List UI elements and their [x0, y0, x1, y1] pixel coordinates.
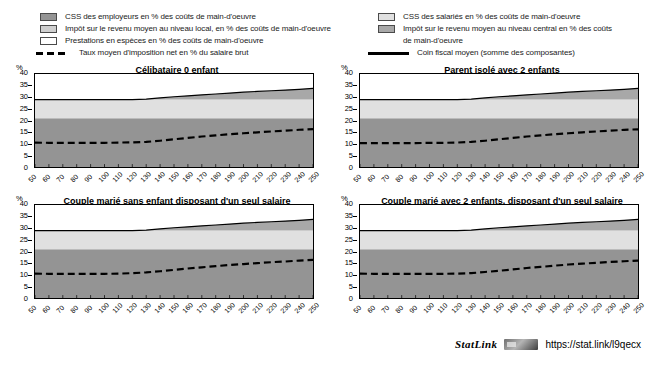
y-tick-label: 30	[345, 224, 353, 232]
x-tick-label: 160	[181, 170, 194, 183]
x-axis-labels: 5060708090100110120130140150160170180190…	[34, 169, 314, 193]
y-tick-mark	[353, 240, 357, 241]
statlink-url[interactable]: https://stat.link/l9qecx	[545, 339, 641, 350]
x-tick-label: 230	[604, 301, 617, 314]
legend-label-net-average-tax-rate: Taux moyen d'imposition net en % du sala…	[79, 48, 248, 58]
y-tick-label: 20	[20, 248, 28, 256]
y-tick-label: 30	[345, 93, 353, 101]
x-tick-label: 100	[97, 301, 110, 314]
x-tick-label: 50	[27, 304, 37, 314]
plot-frame	[359, 204, 639, 299]
legend-item-cash-benefits: Prestations en espèces en % des coûts de…	[40, 36, 340, 46]
legend-label-cash-benefits: Prestations en espèces en % des coûts de…	[65, 36, 263, 46]
legend-label-local-income-tax: Impôt sur le revenu moyen au niveau loca…	[65, 24, 331, 34]
plot-svg	[360, 74, 638, 167]
y-tick-mark	[353, 263, 357, 264]
x-axis-labels: 5060708090100110120130140150160170180190…	[359, 169, 639, 193]
y-tick-mark	[353, 156, 357, 157]
y-tick-mark	[28, 275, 32, 276]
y-axis-labels: 0510152025303540	[0, 73, 32, 168]
area-employee-contributions	[35, 231, 313, 250]
area-central-income-tax	[360, 219, 638, 230]
legend-item-net-average-tax-rate: Taux moyen d'imposition net en % du sala…	[40, 48, 340, 58]
legend-label-central-income-tax: Impôt sur le revenu moyen au niveau cent…	[403, 24, 612, 34]
x-tick-label: 140	[478, 301, 491, 314]
x-tick-label: 50	[352, 304, 362, 314]
y-tick-mark	[353, 228, 357, 229]
y-tick-label: 0	[24, 295, 28, 303]
legend-column-left: CSS des employeurs en % des coûts de mai…	[40, 12, 340, 60]
x-tick-label: 240	[293, 170, 306, 183]
x-tick-label: 240	[618, 301, 631, 314]
x-tick-label: 160	[181, 301, 194, 314]
y-tick-mark	[353, 85, 357, 86]
x-tick-label: 80	[69, 173, 79, 183]
x-tick-label: 120	[125, 170, 138, 183]
chart-panel-2: %Couple marié sans enfant disposant d'un…	[0, 193, 324, 324]
legend-swatch-local-income-tax	[40, 25, 57, 33]
x-tick-label: 180	[209, 170, 222, 183]
area-employer-contributions	[360, 249, 638, 298]
y-tick-mark	[28, 228, 32, 229]
x-tick-label: 170	[195, 301, 208, 314]
legend-item-central-income-tax: Impôt sur le revenu moyen au niveau cent…	[378, 24, 648, 34]
y-tick-mark	[28, 85, 32, 86]
figure-footer: StatLink https://stat.link/l9qecx	[0, 330, 649, 368]
y-tick-label: 30	[20, 224, 28, 232]
x-tick-label: 140	[153, 170, 166, 183]
x-tick-label: 120	[125, 301, 138, 314]
plot-frame	[34, 204, 314, 299]
x-tick-label: 130	[464, 301, 477, 314]
chart-panel-0: %Célibataire 0 enfant0510152025303540506…	[0, 62, 324, 193]
x-tick-label: 70	[55, 304, 65, 314]
y-tick-label: 20	[345, 117, 353, 125]
y-tick-mark	[353, 144, 357, 145]
y-tick-label: 40	[20, 200, 28, 208]
x-tick-label: 100	[422, 301, 435, 314]
x-tick-label: 70	[380, 304, 390, 314]
x-tick-label: 140	[153, 301, 166, 314]
y-tick-label: 15	[345, 129, 353, 137]
x-tick-label: 100	[97, 170, 110, 183]
y-tick-label: 35	[345, 81, 353, 89]
x-tick-label: 90	[408, 304, 418, 314]
x-tick-label: 60	[366, 173, 376, 183]
x-tick-label: 120	[450, 301, 463, 314]
x-tick-label: 50	[352, 173, 362, 183]
x-tick-label: 60	[366, 304, 376, 314]
x-tick-label: 110	[111, 171, 124, 184]
area-employee-contributions	[35, 100, 313, 119]
x-tick-label: 70	[380, 173, 390, 183]
y-tick-mark	[28, 132, 32, 133]
x-tick-label: 200	[562, 301, 575, 314]
legend-label-employer-social-contributions: CSS des employeurs en % des coûts de mai…	[65, 12, 256, 22]
x-tick-label: 90	[408, 173, 418, 183]
legend-item-employer-social-contributions: CSS des employeurs en % des coûts de mai…	[40, 12, 340, 22]
x-tick-label: 180	[209, 301, 222, 314]
statlink-label: StatLink	[455, 338, 497, 350]
x-axis-labels: 5060708090100110120130140150160170180190…	[34, 300, 314, 324]
statlink-row[interactable]: StatLink https://stat.link/l9qecx	[455, 338, 641, 350]
legend-swatch-employer-social-contributions	[40, 13, 57, 21]
x-tick-label: 250	[632, 170, 645, 183]
chart-panel-1: %Parent isolé avec 2 enfants051015202530…	[325, 62, 649, 193]
y-tick-label: 30	[20, 93, 28, 101]
legend-item-central-income-tax-cont: de main-d'oeuvre	[378, 36, 648, 46]
x-tick-label: 110	[436, 302, 449, 315]
x-tick-label: 80	[69, 304, 79, 314]
x-tick-label: 240	[618, 170, 631, 183]
x-tick-label: 200	[562, 170, 575, 183]
x-tick-label: 150	[492, 301, 505, 314]
x-tick-label: 120	[450, 170, 463, 183]
x-tick-label: 110	[436, 171, 449, 184]
y-tick-label: 40	[20, 69, 28, 77]
y-axis-labels: 0510152025303540	[325, 204, 357, 299]
y-tick-label: 20	[20, 117, 28, 125]
y-tick-label: 15	[345, 260, 353, 268]
x-tick-label: 250	[307, 301, 320, 314]
y-tick-label: 15	[20, 129, 28, 137]
y-tick-mark	[353, 216, 357, 217]
x-tick-label: 190	[548, 170, 561, 183]
y-tick-mark	[28, 121, 32, 122]
y-axis-labels: 0510152025303540	[0, 204, 32, 299]
